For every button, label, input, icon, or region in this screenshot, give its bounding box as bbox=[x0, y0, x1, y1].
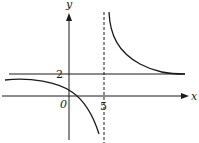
x-axis-arrow-icon bbox=[181, 93, 189, 99]
right-branch-curve bbox=[109, 12, 185, 74]
graph-canvas: y x 2 0 5 bbox=[0, 0, 199, 143]
function-graph-diagram: y x 2 0 5 bbox=[0, 0, 199, 143]
x-axis-label: x bbox=[191, 90, 198, 103]
horizontal-asymptote-label: 2 bbox=[56, 68, 63, 81]
vertical-asymptote-label: 5 bbox=[100, 100, 107, 113]
y-axis-arrow-icon bbox=[66, 13, 72, 21]
y-axis-label: y bbox=[65, 0, 73, 11]
left-branch-curve bbox=[5, 79, 99, 134]
origin-label: 0 bbox=[60, 98, 67, 111]
